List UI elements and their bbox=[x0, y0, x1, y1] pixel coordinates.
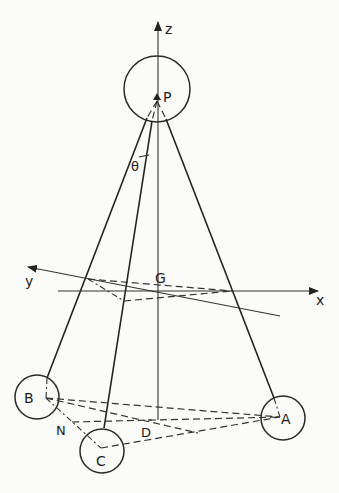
pivot-arrow-icon bbox=[153, 93, 161, 100]
y-axis-label: y bbox=[25, 273, 33, 289]
point-a-label: A bbox=[281, 411, 291, 427]
edge-bc bbox=[46, 398, 101, 448]
edge-ba bbox=[46, 398, 280, 417]
median-b bbox=[46, 398, 198, 433]
median-a-n bbox=[72, 417, 280, 422]
x-axis-label: x bbox=[316, 292, 324, 308]
point-c-label: C bbox=[96, 453, 106, 469]
projected-triangle: G bbox=[88, 270, 232, 301]
sphere-p: P bbox=[124, 56, 190, 122]
edge-ca bbox=[101, 417, 280, 448]
sphere-b: B bbox=[15, 375, 59, 419]
point-d-label: D bbox=[141, 425, 151, 440]
point-n-label: N bbox=[56, 423, 66, 438]
diagram-canvas: z P θ y x G B bbox=[0, 0, 339, 493]
rod-pa bbox=[166, 119, 274, 398]
x-axis: x bbox=[58, 291, 324, 308]
point-b-label: B bbox=[24, 390, 34, 406]
sphere-c: C bbox=[80, 429, 124, 473]
sphere-a: A bbox=[261, 396, 305, 440]
z-axis-label: z bbox=[165, 21, 172, 37]
point-g-label: G bbox=[155, 270, 166, 286]
rods bbox=[47, 101, 274, 428]
base-triangle: N D bbox=[46, 398, 280, 448]
point-p-label: P bbox=[163, 89, 171, 105]
z-axis: z bbox=[158, 21, 172, 420]
theta-label: θ bbox=[131, 159, 139, 174]
